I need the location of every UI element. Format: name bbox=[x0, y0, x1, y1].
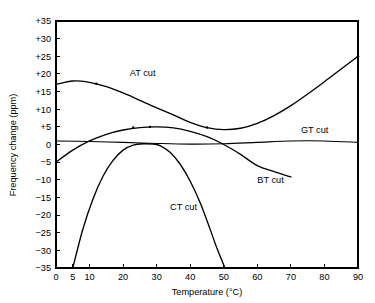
x-tick-label: 80 bbox=[319, 272, 329, 282]
x-tick-label: 40 bbox=[185, 272, 195, 282]
y-tick-label: +20 bbox=[35, 69, 51, 79]
data-point-marker bbox=[149, 126, 151, 128]
y-tick-label: +30 bbox=[35, 34, 51, 44]
y-tick-label: −10 bbox=[35, 175, 51, 185]
x-axis: 05102030405060708090 bbox=[53, 264, 363, 282]
y-tick-label: −15 bbox=[35, 193, 51, 203]
y-tick-label: −35 bbox=[35, 263, 51, 273]
y-tick-label: +25 bbox=[35, 52, 51, 62]
frequency-temperature-chart: −35−30−25−20−15−10−50+5+10+15+20+25+30+3… bbox=[0, 0, 375, 303]
x-tick-label: 10 bbox=[84, 272, 94, 282]
curve-labels: AT cutBT cutCT cutGT cut bbox=[130, 68, 329, 212]
curve-label-gt: GT cut bbox=[301, 125, 329, 135]
y-tick-label: −20 bbox=[35, 210, 51, 220]
curve-bt bbox=[56, 127, 291, 177]
y-tick-label: −5 bbox=[41, 157, 51, 167]
data-markers bbox=[95, 55, 359, 129]
y-tick-label: −25 bbox=[35, 228, 51, 238]
curve-ct bbox=[73, 144, 227, 274]
curve-gt bbox=[56, 141, 358, 144]
x-tick-label: 70 bbox=[286, 272, 296, 282]
data-point-marker bbox=[95, 83, 97, 85]
curve-label-bt: BT cut bbox=[257, 175, 284, 185]
x-tick-label: 90 bbox=[353, 272, 363, 282]
data-point-marker bbox=[132, 126, 134, 128]
data-curves bbox=[56, 56, 358, 273]
data-point-marker bbox=[206, 126, 208, 128]
x-tick-label: 20 bbox=[118, 272, 128, 282]
x-axis-title: Temperature (°C) bbox=[172, 287, 243, 297]
y-tick-label: +10 bbox=[35, 105, 51, 115]
x-tick-label: 60 bbox=[252, 272, 262, 282]
curve-label-ct: CT cut bbox=[170, 202, 197, 212]
y-tick-label: 0 bbox=[46, 140, 51, 150]
data-point-marker bbox=[357, 55, 359, 57]
x-tick-label: 50 bbox=[219, 272, 229, 282]
chart-figure: −35−30−25−20−15−10−50+5+10+15+20+25+30+3… bbox=[0, 0, 375, 303]
curve-label-at: AT cut bbox=[130, 68, 156, 78]
y-tick-label: +35 bbox=[35, 16, 51, 26]
y-tick-label: +15 bbox=[35, 87, 51, 97]
x-tick-label: 0 bbox=[53, 272, 58, 282]
y-tick-label: +5 bbox=[41, 122, 51, 132]
y-tick-label: −30 bbox=[35, 246, 51, 256]
curve-at bbox=[56, 56, 358, 129]
x-tick-label: 5 bbox=[70, 272, 75, 282]
y-axis-title: Frequency change (ppm) bbox=[8, 94, 18, 197]
x-tick-label: 30 bbox=[152, 272, 162, 282]
